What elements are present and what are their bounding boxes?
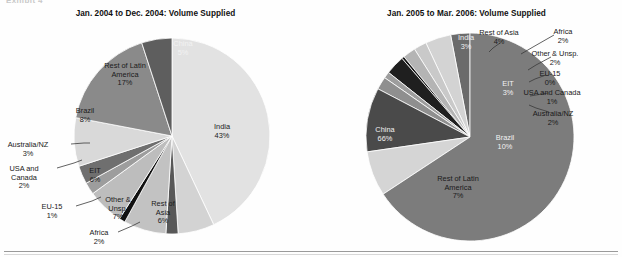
exhibit-figure: Exhibit 4 Jan. 2004 to Dec. 2004: Volume…: [0, 0, 622, 257]
exhibit-bottom-rule-2: [4, 254, 618, 255]
exhibit-bottom-rule: [4, 251, 618, 252]
pie-chart-right: [0, 0, 622, 257]
